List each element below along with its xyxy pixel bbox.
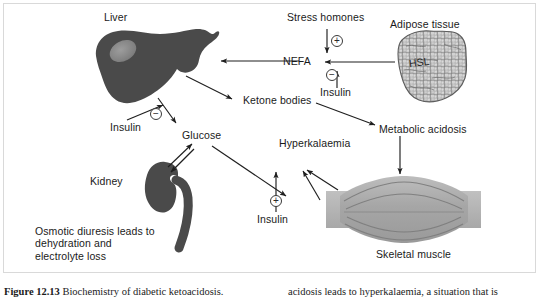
label-hsl-enzyme: HSL bbox=[408, 55, 430, 69]
sign-glyph: + bbox=[271, 196, 281, 206]
figure-caption: Figure 12.13 Biochemistry of diabetic ke… bbox=[0, 276, 539, 304]
label-insulin-adipose: Insulin bbox=[320, 86, 351, 98]
skeletal-muscle-illustration bbox=[326, 176, 481, 243]
caption-left-text: Biochemistry of diabetic ketoacidosis. bbox=[62, 286, 223, 297]
label-liver: Liver bbox=[104, 11, 127, 23]
arrow-ketones-to-acidosis bbox=[316, 103, 375, 125]
arrow-glucose-to-muscle bbox=[212, 146, 286, 196]
sign-glyph: + bbox=[332, 36, 342, 46]
label-stress-hormones: Stress homones bbox=[287, 11, 364, 23]
sign-insulin-muscle-positive: + bbox=[270, 195, 282, 207]
caption-divider bbox=[0, 276, 539, 277]
arrow-liver-to-ketones bbox=[186, 76, 232, 99]
sign-glyph: − bbox=[327, 70, 337, 80]
label-insulin-muscle: Insulin bbox=[257, 213, 288, 225]
label-adipose-tissue: Adipose tissue bbox=[390, 18, 460, 30]
caption-left-column: Figure 12.13 Biochemistry of diabetic ke… bbox=[4, 285, 223, 298]
caption-figure-number: Figure 12.13 bbox=[4, 286, 60, 297]
sign-glyph: − bbox=[151, 109, 161, 119]
label-hyperkalaemia: Hyperkalaemia bbox=[279, 137, 350, 149]
label-insulin-liver: Insulin bbox=[110, 121, 141, 133]
label-kidney: Kidney bbox=[90, 175, 123, 187]
arrow-muscle-k-to-hyperkalaemia bbox=[303, 171, 320, 200]
adipose-illustration bbox=[398, 31, 467, 102]
sign-stress-positive: + bbox=[331, 35, 343, 47]
label-ketone-bodies: Ketone bodies bbox=[243, 94, 311, 106]
label-osmotic-diuresis: Osmotic diuresis leads to dehydration an… bbox=[35, 225, 155, 262]
figure-12-13: Liver Adipose tissue HSL Stress homones … bbox=[0, 0, 539, 304]
liver-illustration bbox=[96, 29, 219, 103]
arrow-muscle-to-hyperkalaemia bbox=[307, 170, 338, 190]
sign-insulin-liver-negative: − bbox=[150, 108, 162, 120]
label-skeletal-muscle: Skeletal muscle bbox=[376, 248, 451, 260]
caption-right-column: acidosis leads to hyperkalaemia, a situa… bbox=[288, 285, 498, 298]
sign-insulin-adipose-negative: − bbox=[326, 69, 338, 81]
label-metabolic-acidosis: Metabolic acidosis bbox=[379, 123, 467, 135]
label-nefa: NEFA bbox=[283, 55, 311, 67]
label-glucose: Glucose bbox=[182, 129, 221, 141]
